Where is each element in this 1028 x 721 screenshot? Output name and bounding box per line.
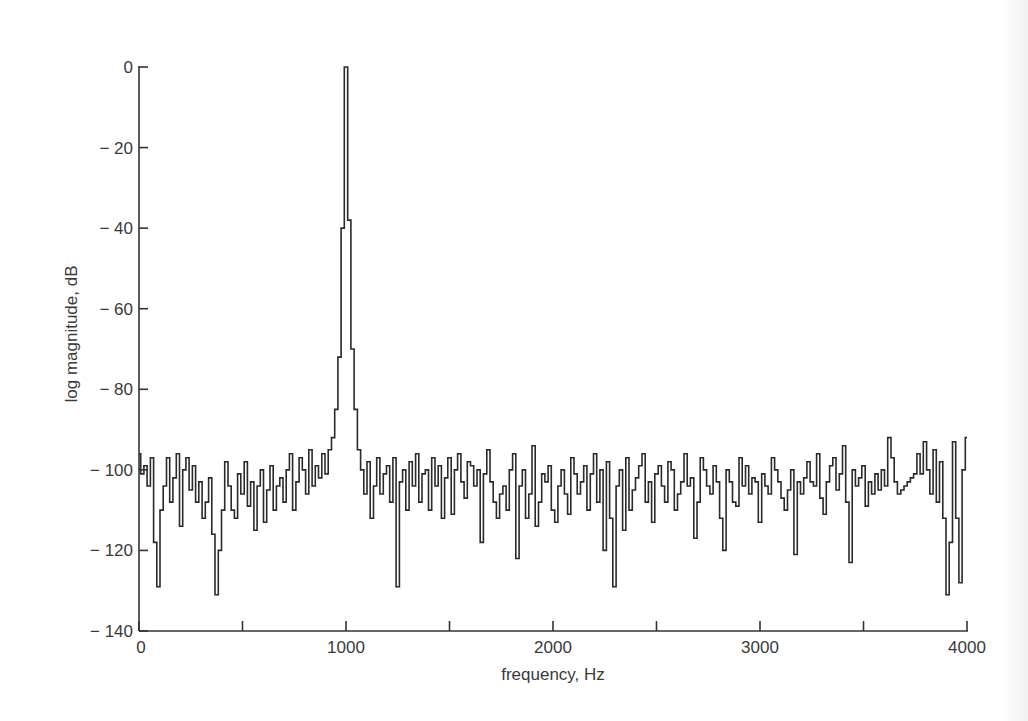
y-tick-label: − 100 bbox=[90, 461, 133, 480]
x-tick-label: 0 bbox=[136, 638, 145, 657]
y-tick-label: − 20 bbox=[99, 139, 133, 158]
y-axis-label: log magnitude, dB bbox=[62, 265, 81, 402]
y-tick-label: − 40 bbox=[99, 219, 133, 238]
spectrum-chart: 0− 20− 40− 60− 80− 100− 120− 140 0100020… bbox=[0, 0, 1028, 721]
y-tick-label: − 80 bbox=[99, 380, 133, 399]
y-tick-label: − 140 bbox=[90, 622, 133, 641]
x-axis-label: frequency, Hz bbox=[501, 665, 605, 684]
plot-area bbox=[139, 67, 967, 595]
page-edge-shadow bbox=[1000, 0, 1028, 721]
y-tick-label: − 120 bbox=[90, 541, 133, 560]
axes: 0− 20− 40− 60− 80− 100− 120− 140 0100020… bbox=[90, 58, 986, 657]
x-tick-label: 3000 bbox=[741, 638, 779, 657]
x-tick-label: 2000 bbox=[534, 638, 572, 657]
y-tick-label: 0 bbox=[124, 58, 133, 77]
x-tick-label: 4000 bbox=[948, 638, 986, 657]
x-tick-label: 1000 bbox=[327, 638, 365, 657]
x-axis-ticks: 01000200030004000 bbox=[136, 621, 986, 657]
y-tick-label: − 60 bbox=[99, 300, 133, 319]
spectrum-line bbox=[139, 67, 967, 595]
